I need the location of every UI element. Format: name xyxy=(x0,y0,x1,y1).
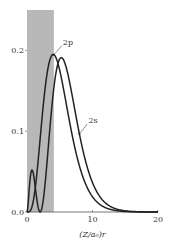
annotation-2s-leader xyxy=(79,124,87,134)
annotation-2p-leader xyxy=(54,46,62,55)
y-tick-label: 0.2 xyxy=(11,46,24,55)
radial-distribution-chart: 01020 0.00.10.2 2p 2s (Z/a₀)r xyxy=(0,0,172,250)
annotation-2s-label: 2s xyxy=(88,116,97,125)
annotation-2s-dot xyxy=(78,133,80,135)
y-tick-label: 0.0 xyxy=(11,208,24,217)
x-axis-title: (Z/a₀)r xyxy=(79,230,106,239)
y-tick-label: 0.1 xyxy=(11,127,24,136)
annotation-2p-label: 2p xyxy=(63,38,73,47)
shaded-region xyxy=(27,10,54,212)
x-tick-label: 10 xyxy=(87,215,97,224)
x-tick-label: 20 xyxy=(153,215,163,224)
annotation-2p-dot xyxy=(53,54,55,56)
x-tick-label: 0 xyxy=(24,215,29,224)
